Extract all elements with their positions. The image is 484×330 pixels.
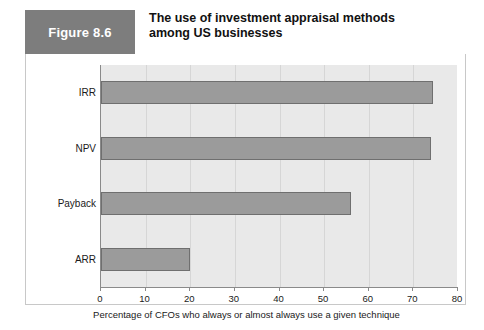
x-axis-tick-label: 50 (318, 293, 329, 304)
x-axis-tick (457, 287, 458, 291)
x-axis-tick (189, 287, 190, 291)
x-axis-tick-label: 10 (139, 293, 150, 304)
figure-title-wrap: The use of investment appraisal methods … (135, 10, 466, 54)
x-axis-title: Percentage of CFOs who always or almost … (26, 309, 467, 320)
figure-title: The use of investment appraisal methods … (149, 11, 439, 41)
figure-container: 01020304050607080 IRRNPVPaybackARR Perce… (0, 0, 484, 330)
x-axis-tick (368, 287, 369, 291)
category-label: ARR (75, 248, 96, 271)
figure-number-label: Figure 8.6 (48, 25, 111, 40)
bar (101, 81, 433, 104)
category-label: Payback (58, 192, 96, 215)
x-axis-tick-label: 0 (97, 293, 102, 304)
figure-card: 01020304050607080 IRRNPVPaybackARR Perce… (25, 28, 466, 305)
x-axis-tick-label: 70 (407, 293, 418, 304)
x-axis-tick-label: 40 (273, 293, 284, 304)
x-axis-tick (234, 287, 235, 291)
category-label: IRR (79, 81, 96, 104)
x-axis-tick (100, 287, 101, 291)
x-axis-tick-label: 60 (362, 293, 373, 304)
category-label: NPV (75, 137, 96, 160)
x-axis-tick (279, 287, 280, 291)
bar (101, 248, 190, 271)
x-axis-tick (412, 287, 413, 291)
figure-number-badge: Figure 8.6 (25, 10, 135, 54)
x-axis-tick-label: 80 (452, 293, 463, 304)
bar (101, 192, 351, 215)
x-axis-tick (323, 287, 324, 291)
x-axis-tick (145, 287, 146, 291)
plot-area (100, 65, 457, 287)
bar (101, 137, 431, 160)
x-axis-tick-label: 30 (229, 293, 240, 304)
chart-plot-region: 01020304050607080 IRRNPVPaybackARR Perce… (26, 55, 467, 306)
figure-header: Figure 8.6 The use of investment apprais… (25, 10, 466, 54)
x-axis-tick-label: 20 (184, 293, 195, 304)
